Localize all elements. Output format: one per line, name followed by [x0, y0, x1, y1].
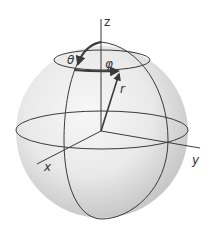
- z-axis-label: z: [104, 15, 110, 29]
- azimuth-angle-label: φ: [105, 57, 113, 71]
- polar-angle-label: θ: [67, 53, 75, 67]
- x-axis-label: x: [43, 160, 52, 174]
- spherical-coordinates-diagram: z x y r θ φ: [0, 0, 217, 238]
- y-axis-label: y: [191, 153, 200, 167]
